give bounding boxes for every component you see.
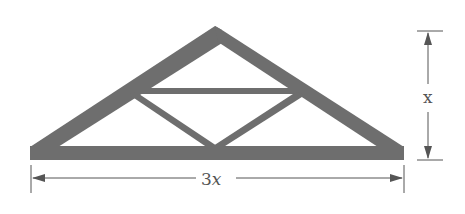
bottom-chord — [30, 146, 404, 160]
arrow-down-icon — [424, 146, 432, 159]
arrow-up-icon — [424, 32, 432, 45]
left-rafter — [30, 26, 222, 147]
width-label: 3x — [201, 169, 222, 189]
horizontal-collar-tie — [130, 88, 302, 94]
left-diagonal-web — [128, 92, 220, 148]
truss — [30, 26, 404, 160]
truss-diagram: 3x x — [0, 0, 465, 214]
height-label: x — [423, 87, 433, 107]
arrow-right-icon — [390, 174, 403, 182]
right-diagonal-web — [210, 92, 305, 148]
arrow-left-icon — [32, 174, 45, 182]
